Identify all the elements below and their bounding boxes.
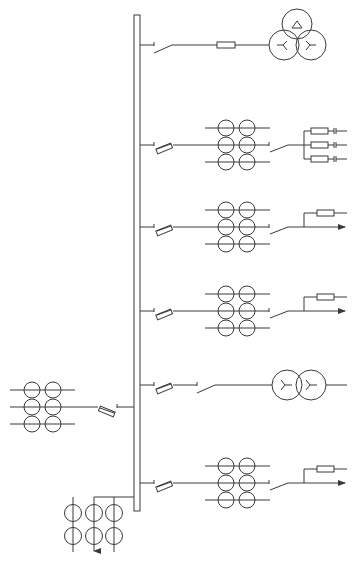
- fuse-cutout-icon: [156, 143, 173, 154]
- switch-icon: [197, 385, 215, 393]
- switch-icon: [270, 227, 288, 234]
- fuse-cutout-icon: [156, 383, 173, 394]
- fuse-cutout-icon: [156, 309, 173, 320]
- fuse-cutout-icon: [156, 225, 173, 236]
- busbar: [134, 15, 140, 511]
- feeder-3: [140, 202, 347, 252]
- switch-icon: [270, 311, 288, 318]
- feeder-1: [140, 9, 326, 60]
- fuse-branch: [304, 466, 347, 483]
- incoming-left: [10, 382, 134, 432]
- switch-icon: [270, 483, 288, 490]
- fuse-branch: [304, 294, 347, 311]
- feeder-2: [140, 120, 347, 170]
- two-winding-transformer-icon: [272, 370, 326, 400]
- vertical-current-transformer-set-icon: [65, 497, 123, 552]
- bottom-tap: [65, 497, 135, 552]
- fuse-icon: [217, 42, 235, 48]
- feeder-4: [140, 286, 347, 336]
- fuse-branch: [304, 210, 347, 227]
- single-line-diagram: [0, 0, 355, 561]
- feeder-5: [140, 370, 347, 400]
- three-winding-transformer-icon: [269, 9, 326, 60]
- fuse-cutout-icon: [156, 481, 173, 492]
- capacitor-fuse-branch: [304, 128, 347, 162]
- switch-icon: [270, 145, 288, 152]
- isolating-switch-icon: [154, 45, 172, 53]
- feeder-6: [140, 458, 347, 508]
- fuse-cutout-icon: [98, 406, 115, 417]
